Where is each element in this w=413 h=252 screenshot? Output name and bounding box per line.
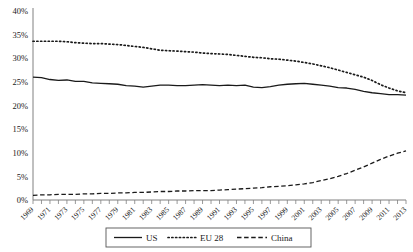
y-tick-label: 25%: [12, 77, 28, 87]
series-line-us: [33, 77, 406, 95]
x-tick-label: 1973: [52, 205, 69, 222]
x-tick-label: 1991: [205, 205, 222, 222]
x-tick-label: 2011: [375, 205, 392, 222]
y-tick-label: 10%: [12, 148, 28, 158]
x-tick-label: 1985: [154, 205, 171, 222]
x-tick-label: 2003: [307, 205, 324, 222]
series-line-china: [33, 151, 406, 195]
y-tick-label: 30%: [12, 53, 28, 63]
y-tick-label: 5%: [17, 172, 28, 182]
legend-label-us: US: [146, 233, 158, 243]
y-tick-label: 0%: [17, 195, 28, 205]
x-tick-label: 1999: [273, 205, 290, 222]
x-tick-label: 1989: [188, 205, 205, 222]
x-tick-label: 2009: [357, 205, 374, 222]
y-tick-label: 40%: [12, 6, 28, 16]
chart-canvas: 0%5%10%15%20%25%30%35%40%196919711973197…: [0, 0, 413, 252]
x-tick-label: 1983: [137, 205, 154, 222]
x-tick-label: 1971: [35, 205, 52, 222]
x-tick-label: 1977: [86, 205, 103, 222]
x-tick-label: 2001: [290, 205, 307, 222]
y-tick-label: 15%: [12, 124, 28, 134]
x-tick-label: 1997: [256, 205, 273, 222]
x-tick-label: 1995: [239, 205, 256, 222]
x-tick-label: 2007: [340, 205, 357, 222]
x-tick-label: 1969: [18, 205, 35, 222]
x-tick-label: 1987: [171, 205, 188, 222]
x-tick-label: 1993: [222, 205, 239, 222]
line-chart: 0%5%10%15%20%25%30%35%40%196919711973197…: [0, 0, 413, 252]
x-tick-label: 1975: [69, 205, 86, 222]
x-tick-label: 1979: [103, 205, 120, 222]
legend-label-eu-28: EU 28: [200, 233, 224, 243]
y-tick-label: 35%: [12, 30, 28, 40]
x-tick-label: 1981: [120, 205, 137, 222]
x-tick-label: 2005: [323, 205, 340, 222]
y-tick-label: 20%: [12, 101, 28, 111]
legend-label-china: China: [271, 233, 293, 243]
x-tick-label: 2013: [391, 205, 408, 222]
